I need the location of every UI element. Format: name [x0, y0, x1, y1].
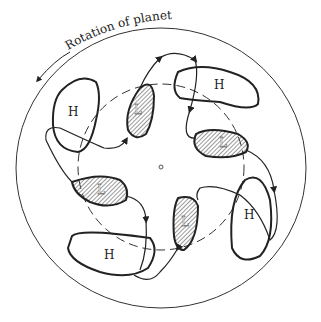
high-label-1: H — [68, 105, 78, 119]
low-label-1: L — [134, 103, 142, 117]
rotation-arrow — [38, 52, 70, 80]
high-label-3: H — [104, 248, 114, 262]
flow-line-5 — [126, 196, 146, 270]
low-label-2: L — [219, 136, 227, 150]
flow-line-2 — [246, 150, 274, 190]
rotation-label: Rotation of planet — [63, 8, 173, 53]
low-label-3: L — [97, 183, 105, 197]
low-label-4: L — [181, 215, 189, 229]
planet-outline — [16, 28, 306, 308]
flow-line-6 — [46, 128, 126, 183]
high-label-2: H — [214, 78, 224, 92]
high-label-4: H — [244, 208, 254, 222]
pole-marker — [159, 165, 163, 169]
dashed-latitude-circle — [78, 84, 244, 250]
planet-circulation-diagram: Rotation of planet H H H H L L L L — [0, 0, 321, 322]
flow-line-4 — [134, 248, 178, 279]
